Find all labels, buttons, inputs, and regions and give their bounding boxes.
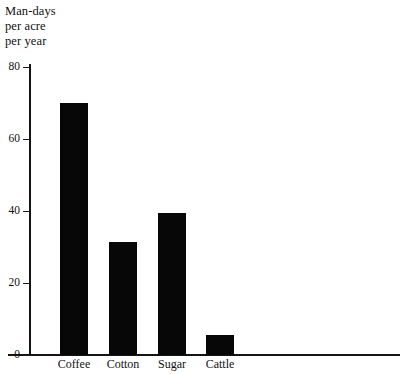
- bar-cotton: [109, 242, 137, 355]
- bar-coffee: [60, 103, 88, 355]
- bar-cattle: [206, 335, 234, 355]
- category-label-cattle: Cattle: [180, 357, 260, 372]
- bar-chart: Man-days per acre per year 020406080 Cof…: [0, 0, 401, 374]
- bar-sugar: [158, 213, 186, 355]
- bars-layer: [0, 0, 401, 374]
